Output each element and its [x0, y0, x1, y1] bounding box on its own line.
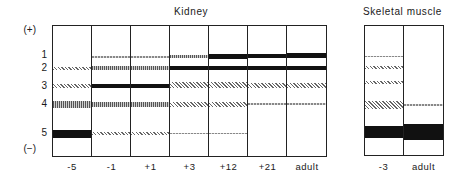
- gel-band: [92, 84, 130, 88]
- lane-label-kidney-+12: +12: [209, 161, 248, 172]
- gel-band: [131, 66, 169, 70]
- lane-label-muscle-adult: adult: [403, 161, 444, 172]
- band-label-1: 1: [17, 49, 47, 60]
- gel-band: [92, 56, 130, 58]
- gel-lane-kidney--5: [53, 26, 92, 156]
- gel-band: [287, 53, 326, 58]
- lane-label-kidney-+1: +1: [131, 161, 170, 172]
- gel-lane-kidney-+21: [248, 26, 287, 156]
- gel-lane-kidney-+3: [170, 26, 209, 156]
- gel-lane-kidney-+12: [209, 26, 248, 156]
- gel-band: [209, 66, 247, 70]
- gel-band: [404, 124, 443, 140]
- gel-band: [209, 133, 247, 134]
- gel-band: [248, 83, 286, 88]
- gel-band: [53, 130, 91, 138]
- gel-band: [131, 132, 169, 135]
- gel-band: [53, 84, 91, 88]
- gel-band: [92, 66, 130, 70]
- lane-label-kidney-+21: +21: [248, 161, 287, 172]
- gel-band: [404, 104, 443, 106]
- gel-band: [170, 55, 208, 58]
- gel-band: [170, 133, 208, 134]
- gel-band: [365, 126, 403, 138]
- gel-band: [365, 81, 403, 84]
- lane-label-kidney-adult: adult: [287, 161, 327, 172]
- gel-lane-kidney-adult: [287, 26, 326, 156]
- gel-band: [92, 132, 130, 135]
- gel-band: [170, 102, 208, 107]
- lane-label-kidney--1: -1: [92, 161, 131, 172]
- gel-band: [53, 67, 91, 70]
- lane-label-muscle--3: -3: [364, 161, 403, 172]
- gel-band: [209, 82, 247, 88]
- gel-band: [209, 54, 247, 59]
- gel-band: [131, 102, 169, 107]
- panel-title-kidney: Kidney: [174, 6, 208, 17]
- gel-band: [287, 66, 326, 70]
- gel-band: [209, 102, 247, 107]
- gel-band: [248, 66, 286, 70]
- kidney-gel-frame: [52, 25, 327, 157]
- panel-title-skeletal-muscle: Skeletal muscle: [363, 6, 442, 17]
- lane-label-kidney--5: -5: [52, 161, 92, 172]
- gel-lane-muscle--3: [365, 26, 404, 155]
- lane-label-kidney-+3: +3: [170, 161, 209, 172]
- band-label-5: 5: [17, 127, 47, 138]
- band-label-3: 3: [17, 80, 47, 91]
- gel-band: [170, 66, 208, 70]
- gel-band: [287, 83, 326, 88]
- band-label-2: 2: [17, 62, 47, 73]
- gel-lane-kidney-+1: [131, 26, 170, 156]
- gel-band: [131, 84, 169, 88]
- gel-band: [248, 54, 286, 58]
- gel-band: [287, 103, 326, 105]
- gel-band: [92, 102, 130, 107]
- gel-band: [365, 56, 403, 57]
- gel-band: [365, 66, 403, 69]
- gel-lane-muscle-adult: [404, 26, 443, 155]
- skeletal-muscle-gel-frame: [364, 25, 444, 156]
- y-axis-top-label: (+): [6, 24, 36, 35]
- gel-band: [53, 101, 91, 108]
- gel-band: [131, 56, 169, 58]
- band-label-4: 4: [17, 98, 47, 109]
- gel-band: [170, 82, 208, 88]
- gel-band: [365, 101, 403, 109]
- gel-band: [248, 103, 286, 105]
- gel-lane-kidney--1: [92, 26, 131, 156]
- y-axis-bottom-label: (−): [6, 143, 36, 154]
